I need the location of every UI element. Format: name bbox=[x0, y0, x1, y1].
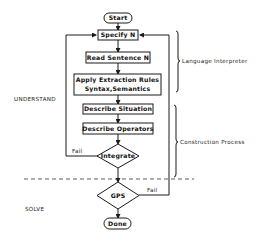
describe-situation-label: Describe Situation bbox=[84, 105, 152, 112]
integrate-fail-label: Fail bbox=[72, 148, 83, 154]
specify-n-label: Specify N bbox=[101, 31, 136, 39]
start-node: Start bbox=[104, 13, 132, 23]
gps-fail-label: Fail bbox=[147, 187, 158, 193]
done-node: Done bbox=[104, 218, 131, 229]
construction-process-label: Construction Process bbox=[180, 139, 245, 145]
integrate-decision: Integrate bbox=[97, 144, 139, 168]
construction-process-bracket bbox=[174, 105, 178, 177]
apply-rules-label-2: Syntax,Semantics bbox=[85, 85, 151, 93]
apply-rules-node: Apply Extraction Rules Syntax,Semantics bbox=[74, 74, 161, 95]
specify-n-node: Specify N bbox=[98, 30, 138, 40]
start-label: Start bbox=[109, 14, 128, 21]
done-label: Done bbox=[108, 220, 127, 227]
read-sentence-label: Read Sentence N bbox=[87, 54, 150, 61]
flowchart: Start Specify N Read Sentence N Apply Ex… bbox=[0, 0, 266, 251]
solve-phase-label: SOLVE bbox=[25, 206, 44, 212]
language-interpreter-bracket bbox=[176, 31, 180, 92]
gps-decision: GPS bbox=[97, 182, 139, 209]
describe-operators-node: Describe Operators bbox=[82, 123, 153, 134]
language-interpreter-label: Language Interpreter bbox=[182, 58, 248, 65]
apply-rules-label-1: Apply Extraction Rules bbox=[76, 76, 160, 84]
understand-phase-label: UNDERSTAND bbox=[14, 96, 56, 102]
describe-operators-label: Describe Operators bbox=[82, 125, 153, 133]
read-sentence-node: Read Sentence N bbox=[86, 52, 150, 63]
integrate-label: Integrate bbox=[101, 152, 135, 160]
gps-label: GPS bbox=[111, 192, 126, 199]
describe-situation-node: Describe Situation bbox=[83, 104, 153, 114]
